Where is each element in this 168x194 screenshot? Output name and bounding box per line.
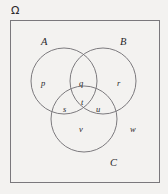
region-label-u: u (96, 105, 100, 114)
omega-universal-set-label: Ω (11, 5, 19, 16)
universal-set-rectangle (11, 21, 160, 183)
set-label-a: A (41, 37, 47, 48)
set-circle-c (51, 86, 117, 152)
set-label-b: B (120, 37, 126, 48)
region-label-r: r (117, 79, 120, 88)
venn-diagram-figure: Ω A B C p q r s t u v w (0, 0, 168, 194)
region-label-t: t (81, 98, 83, 107)
region-label-s: s (63, 105, 66, 114)
set-label-c: C (110, 158, 117, 169)
region-label-v: v (79, 125, 83, 134)
region-label-q: q (79, 79, 83, 88)
venn-diagram-canvas (0, 0, 168, 194)
region-label-w: w (130, 125, 136, 134)
region-label-p: p (41, 79, 45, 88)
